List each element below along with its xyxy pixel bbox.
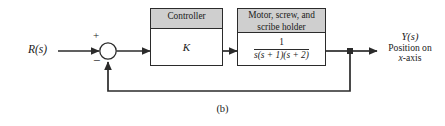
block-plant-title: Motor, screw, and scribe holder: [238, 9, 325, 33]
block-plant-transfer-function: 1 s(s + 1)(s + 2): [238, 33, 325, 65]
output-label-group: Y(s) Position on x-axis: [378, 31, 442, 64]
block-controller: Controller K: [150, 8, 223, 66]
output-signal-label: Y(s): [378, 31, 442, 43]
block-controller-gain: K: [151, 29, 222, 65]
summing-junction-circle: [100, 43, 116, 59]
output-description-line2: x-axis: [378, 53, 442, 64]
summing-plus-sign: +: [93, 29, 99, 41]
figure-caption: (b): [0, 103, 445, 115]
input-signal-label: R(s): [28, 43, 47, 56]
output-axis-suffix: -axis: [403, 52, 422, 63]
transfer-function-numerator: 1: [252, 38, 311, 48]
block-plant-title-line1: Motor, screw, and: [248, 10, 315, 20]
summing-minus-sign: −: [93, 54, 100, 69]
block-plant: Motor, screw, and scribe holder 1 s(s + …: [237, 8, 326, 66]
transfer-function-fraction: 1 s(s + 1)(s + 2): [252, 38, 311, 61]
transfer-function-denominator: s(s + 1)(s + 2): [252, 51, 311, 61]
block-controller-title: Controller: [151, 9, 222, 29]
block-diagram-figure: R(s) + − Controller K Motor, screw, and …: [0, 0, 445, 126]
block-plant-title-line2: scribe holder: [257, 22, 305, 32]
